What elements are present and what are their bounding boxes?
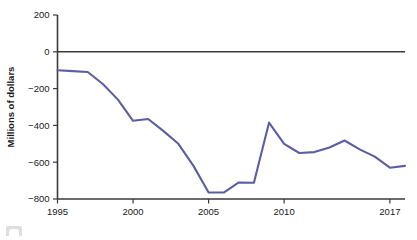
- y-tick-label: 0: [44, 46, 49, 57]
- y-axis: 2000−200−400−600−800: [28, 9, 405, 204]
- x-axis: 19952000200520102017: [47, 199, 405, 217]
- chart-figure: 2000−200−400−600−800 1995200020052010201…: [0, 0, 417, 240]
- line-chart: 2000−200−400−600−800 1995200020052010201…: [0, 0, 417, 240]
- y-axis-title: Millions of dollars: [5, 67, 16, 148]
- y-axis-title-text: Millions of dollars: [5, 67, 16, 148]
- x-tick-label: 2005: [198, 206, 219, 217]
- x-tick-label: 2010: [274, 206, 295, 217]
- y-tick-label: −200: [28, 83, 49, 94]
- x-tick-label: 1995: [47, 206, 68, 217]
- y-tick-label: −600: [28, 157, 49, 168]
- y-tick-label: −800: [28, 193, 49, 204]
- x-tick-label: 2017: [379, 206, 400, 217]
- x-tick-label: 2000: [122, 206, 143, 217]
- y-tick-label: 200: [34, 9, 50, 20]
- y-tick-label: −400: [28, 120, 49, 131]
- data-series: [58, 70, 406, 192]
- page-corner-artifact: [6, 226, 22, 236]
- series-line: [58, 70, 406, 192]
